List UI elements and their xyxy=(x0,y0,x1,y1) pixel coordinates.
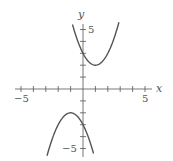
y-tick-label-min: −5 xyxy=(62,143,77,154)
upper-parabola-curve xyxy=(72,22,119,65)
x-axis-label: x xyxy=(156,82,163,95)
y-tick-label-max: 5 xyxy=(88,24,94,35)
axes xyxy=(15,24,152,157)
function-plot: x y −5 5 5 −5 xyxy=(0,0,173,161)
y-axis-label: y xyxy=(77,8,85,21)
x-tick-label-min: −5 xyxy=(14,93,29,104)
x-tick-label-max: 5 xyxy=(142,93,148,104)
